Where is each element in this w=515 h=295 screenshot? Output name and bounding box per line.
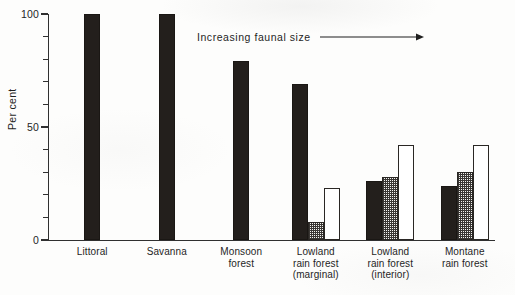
bar-cluster — [366, 14, 414, 240]
bar — [473, 145, 489, 240]
bar-cluster — [159, 14, 175, 240]
y-axis-tick — [43, 104, 48, 105]
right-arrow-icon — [320, 32, 424, 42]
bar — [308, 222, 324, 240]
annotation-label: Increasing faunal size — [197, 31, 311, 43]
x-axis-category-label: Monsoon forest — [204, 246, 279, 269]
plot-area: 100500 LittoralSavannaMonsoon forestLowl… — [48, 14, 495, 240]
y-axis-line — [48, 14, 49, 240]
y-axis-tick — [41, 13, 48, 14]
y-axis-tick — [41, 239, 48, 240]
bar — [84, 14, 100, 240]
y-axis-tick — [43, 59, 48, 60]
y-axis-title: Per cent — [6, 88, 18, 130]
bar-cluster — [233, 14, 249, 240]
y-axis-tick — [43, 194, 48, 195]
bar — [233, 61, 249, 240]
y-axis-tick — [41, 126, 48, 127]
y-axis-tick-label: 50 — [27, 121, 39, 133]
x-axis-line — [48, 240, 495, 241]
bar — [398, 145, 414, 240]
bar — [292, 84, 308, 240]
x-axis-category-label: Montane rain forest — [428, 246, 503, 269]
y-axis-tick — [43, 149, 48, 150]
y-axis-tick — [43, 36, 48, 37]
bar-cluster — [292, 14, 340, 240]
bar-cluster — [441, 14, 489, 240]
bar — [366, 181, 382, 240]
bar — [324, 188, 340, 240]
x-axis-category-label: Lowland rain forest (interior) — [353, 246, 428, 281]
bar — [457, 172, 473, 240]
y-axis-tick-label: 0 — [33, 234, 39, 246]
y-axis-tick — [43, 172, 48, 173]
y-axis-tick-label: 100 — [21, 8, 39, 20]
bar-cluster — [84, 14, 100, 240]
y-axis-tick — [43, 81, 48, 82]
bar — [441, 186, 457, 240]
y-axis-tick — [43, 217, 48, 218]
x-axis-category-label: Lowland rain forest (marginal) — [279, 246, 354, 281]
x-axis-category-label: Savanna — [130, 246, 205, 258]
bar — [159, 14, 175, 240]
chart-figure: Per cent 100500 LittoralSavannaMonsoon f… — [0, 0, 515, 295]
annotation-increasing-faunal-size: Increasing faunal size — [197, 31, 424, 43]
x-axis-category-label: Littoral — [55, 246, 130, 258]
bar — [382, 177, 398, 240]
